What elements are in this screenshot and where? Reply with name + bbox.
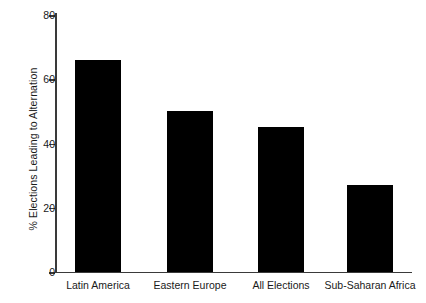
y-tick-label: 80: [13, 9, 55, 21]
x-tick-label: All Elections: [252, 279, 309, 291]
y-tick-label: 0: [13, 266, 55, 278]
x-tick-label: Latin America: [66, 279, 130, 291]
bar: [347, 185, 393, 272]
bar: [167, 111, 213, 272]
bar-chart: % Elections Leading to Alternation 02040…: [0, 0, 426, 303]
y-tick-label: 20: [13, 202, 55, 214]
y-tick-label: 40: [13, 138, 55, 150]
bar: [258, 127, 304, 272]
plot-area: [55, 13, 412, 272]
y-tick-label: 60: [13, 73, 55, 85]
x-tick-label: Eastern Europe: [154, 279, 227, 291]
bar: [75, 60, 121, 272]
x-tick-label: Sub-Saharan Africa: [324, 279, 415, 291]
